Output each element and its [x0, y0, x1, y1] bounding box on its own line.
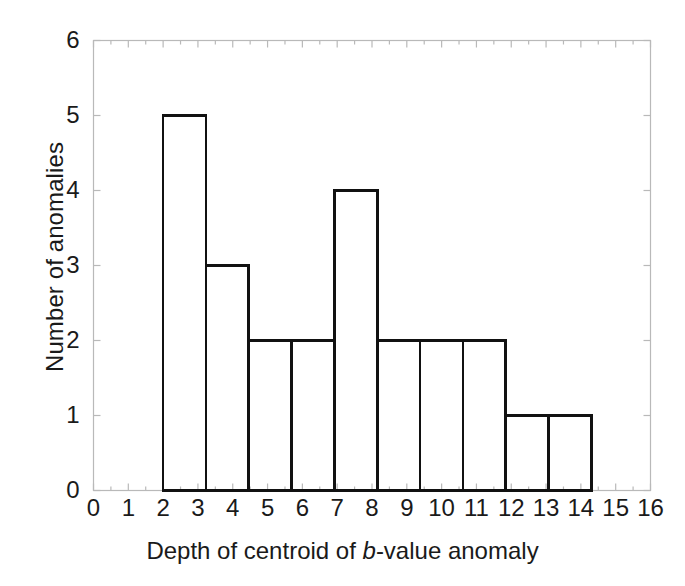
y-tick-label: 4 — [46, 178, 80, 202]
histogram-figure: Number of anomalies 01234567891011121314… — [0, 0, 685, 586]
histogram-bar — [463, 341, 506, 491]
x-axis-title-post: -value anomaly — [376, 537, 539, 564]
histogram-bar — [377, 341, 420, 491]
y-tick-label: 5 — [46, 103, 80, 127]
x-axis-title: Depth of centroid of b-value anomaly — [0, 537, 685, 565]
x-axis-title-italic: b — [363, 537, 376, 564]
y-tick-label: 6 — [46, 28, 80, 52]
histogram-bar — [334, 191, 377, 491]
histogram-bar — [292, 341, 335, 491]
plot-frame-box — [94, 41, 651, 491]
y-tick-label: 2 — [46, 328, 80, 352]
histogram-bar — [163, 116, 206, 491]
x-tick-label: 16 — [631, 496, 671, 520]
histogram-bar — [206, 266, 249, 491]
histogram-bar — [249, 341, 292, 491]
histogram-bars — [163, 116, 591, 491]
histogram-bar — [506, 416, 549, 491]
histogram-bar — [420, 341, 463, 491]
y-tick-label: 3 — [46, 253, 80, 277]
y-tick-label: 1 — [46, 403, 80, 427]
x-axis-title-pre: Depth of centroid of — [146, 537, 362, 564]
axis-frame — [94, 41, 651, 491]
y-tick-label: 0 — [46, 478, 80, 502]
axis-ticks — [94, 41, 651, 491]
histogram-bar — [548, 416, 591, 491]
